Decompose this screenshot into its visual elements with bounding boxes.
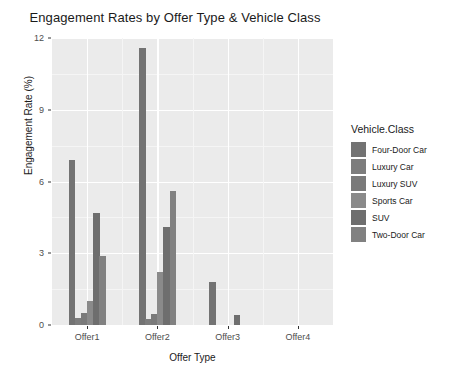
grid-line-major-vertical (228, 38, 229, 325)
y-tick-mark (48, 109, 51, 110)
legend-label: Four-Door Car (372, 145, 427, 155)
bar (139, 48, 145, 325)
x-tick-mark (228, 326, 229, 329)
x-tick-label: Offer1 (75, 332, 100, 342)
legend-items: Four-Door CarLuxury CarLuxury SUVSports … (351, 141, 457, 243)
legend-swatch (351, 159, 366, 174)
x-tick-label: Offer2 (145, 332, 170, 342)
y-tick-mark (48, 325, 51, 326)
legend-swatch (351, 227, 366, 242)
bar-chart: Engagement Rates by Offer Type & Vehicle… (0, 0, 457, 384)
legend-swatch (351, 176, 366, 191)
y-tick-label: 0 (14, 320, 44, 330)
legend-label: SUV (372, 213, 389, 223)
y-axis-title: Engagement Rate (%) (23, 46, 34, 206)
legend-label: Sports Car (372, 196, 413, 206)
x-tick-mark (157, 326, 158, 329)
legend-item: Sports Car (351, 192, 457, 209)
grid-line-major-vertical (87, 38, 88, 325)
legend-label: Two-Door Car (372, 230, 425, 240)
legend-title: Vehicle.Class (351, 123, 457, 135)
plot-panel (52, 38, 333, 325)
grid-line-major-vertical (298, 38, 299, 325)
bar (234, 315, 240, 325)
legend-label: Luxury Car (372, 162, 414, 172)
legend-swatch (351, 193, 366, 208)
y-tick-mark (48, 253, 51, 254)
legend-item: Luxury Car (351, 158, 457, 175)
x-tick-label: Offer4 (285, 332, 310, 342)
legend-swatch (351, 210, 366, 225)
y-tick-label: 12 (14, 33, 44, 43)
y-tick-mark (48, 38, 51, 39)
chart-title: Engagement Rates by Offer Type & Vehicle… (0, 10, 350, 25)
legend-swatch (351, 142, 366, 157)
bar (170, 191, 176, 325)
legend-item: SUV (351, 209, 457, 226)
x-axis-title: Offer Type (52, 352, 333, 363)
bar (99, 256, 105, 325)
legend: Vehicle.Class Four-Door CarLuxury CarLux… (351, 123, 457, 243)
legend-item: Luxury SUV (351, 175, 457, 192)
x-tick-label: Offer3 (215, 332, 240, 342)
x-tick-mark (87, 326, 88, 329)
grid-line-minor-vertical (122, 38, 123, 325)
y-tick-mark (48, 181, 51, 182)
grid-line-minor-vertical (263, 38, 264, 325)
bar (69, 160, 75, 325)
legend-label: Luxury SUV (372, 179, 417, 189)
bar (209, 282, 215, 325)
legend-item: Two-Door Car (351, 226, 457, 243)
y-tick-label: 3 (14, 248, 44, 258)
legend-item: Four-Door Car (351, 141, 457, 158)
grid-line-minor-vertical (193, 38, 194, 325)
x-tick-mark (298, 326, 299, 329)
